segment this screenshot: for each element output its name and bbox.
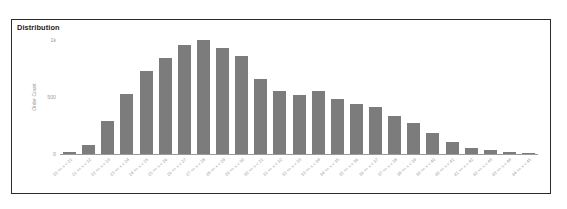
x-tick-slot: 33 <= x < 34 bbox=[309, 156, 328, 194]
x-tick-slot: 32 <= x < 33 bbox=[290, 156, 309, 194]
x-tick-slot: 42 <= x < 43 bbox=[481, 156, 500, 194]
bar-slot bbox=[290, 40, 309, 154]
bar-slot bbox=[98, 40, 117, 154]
x-tick-slot: 30 <= x < 31 bbox=[251, 156, 270, 194]
bar[interactable] bbox=[178, 45, 191, 154]
bar-slot bbox=[117, 40, 136, 154]
bar-slot bbox=[79, 40, 98, 154]
bar-slot bbox=[366, 40, 385, 154]
bar-slot bbox=[175, 40, 194, 154]
bar[interactable] bbox=[82, 145, 95, 154]
bar-slot bbox=[213, 40, 232, 154]
bar[interactable] bbox=[254, 79, 267, 154]
bar-series bbox=[60, 40, 538, 154]
bar-slot bbox=[481, 40, 500, 154]
x-tick-slot: 23 <= x < 24 bbox=[117, 156, 136, 194]
x-axis-tick-label: 20 <= x < 21 bbox=[51, 157, 73, 177]
bar[interactable] bbox=[369, 107, 382, 154]
bar[interactable] bbox=[350, 104, 363, 154]
bar[interactable] bbox=[522, 153, 535, 154]
bar-slot bbox=[251, 40, 270, 154]
bar[interactable] bbox=[465, 148, 478, 154]
bar[interactable] bbox=[407, 123, 420, 154]
plot-area bbox=[60, 40, 538, 154]
bar[interactable] bbox=[140, 71, 153, 154]
y-axis-tick-label: 0 bbox=[53, 151, 60, 157]
bar[interactable] bbox=[273, 91, 286, 154]
x-axis-ticks: 20 <= x < 2121 <= x < 2222 <= x < 2323 <… bbox=[60, 156, 538, 194]
bar[interactable] bbox=[63, 152, 76, 154]
bar-slot bbox=[137, 40, 156, 154]
bar-slot bbox=[443, 40, 462, 154]
bar[interactable] bbox=[293, 95, 306, 154]
bar-slot bbox=[347, 40, 366, 154]
bar-slot bbox=[194, 40, 213, 154]
bar[interactable] bbox=[120, 94, 133, 154]
bar-slot bbox=[404, 40, 423, 154]
bar[interactable] bbox=[312, 91, 325, 154]
bar-slot bbox=[60, 40, 79, 154]
bar[interactable] bbox=[159, 58, 172, 154]
bar-slot bbox=[462, 40, 481, 154]
bar[interactable] bbox=[331, 99, 344, 154]
bar-slot bbox=[328, 40, 347, 154]
x-axis-line bbox=[60, 154, 538, 155]
bar[interactable] bbox=[101, 121, 114, 154]
x-tick-slot: 44 <= x < 45 bbox=[519, 156, 538, 194]
bar-slot bbox=[385, 40, 404, 154]
x-tick-slot: 40 <= x < 41 bbox=[443, 156, 462, 194]
bar[interactable] bbox=[426, 133, 439, 154]
bar-slot bbox=[309, 40, 328, 154]
x-tick-slot: 22 <= x < 23 bbox=[98, 156, 117, 194]
bar[interactable] bbox=[388, 116, 401, 154]
x-tick-slot: 34 <= x < 35 bbox=[328, 156, 347, 194]
bar-slot bbox=[519, 40, 538, 154]
screenshot-root: Distribution Order Count 1k5000 20 <= x … bbox=[0, 0, 567, 209]
x-tick-slot: 24 <= x < 25 bbox=[137, 156, 156, 194]
bar-slot bbox=[156, 40, 175, 154]
bar[interactable] bbox=[235, 56, 248, 154]
bar[interactable] bbox=[503, 152, 516, 154]
bar-slot bbox=[423, 40, 442, 154]
distribution-bar-chart: Order Count 1k5000 20 <= x < 2121 <= x <… bbox=[12, 20, 552, 195]
bar[interactable] bbox=[484, 150, 497, 154]
y-axis-tick-label: 500 bbox=[47, 94, 60, 100]
y-axis-tick-label: 1k bbox=[51, 37, 60, 43]
bar-slot bbox=[500, 40, 519, 154]
bar-slot bbox=[270, 40, 289, 154]
x-tick-slot: 41 <= x < 42 bbox=[462, 156, 481, 194]
x-tick-slot: 39 <= x < 40 bbox=[423, 156, 442, 194]
x-tick-slot: 25 <= x < 26 bbox=[156, 156, 175, 194]
bar[interactable] bbox=[446, 142, 459, 154]
bar-slot bbox=[232, 40, 251, 154]
y-axis-title: Order Count bbox=[31, 83, 37, 111]
bar[interactable] bbox=[197, 40, 210, 154]
distribution-card: Distribution Order Count 1k5000 20 <= x … bbox=[11, 19, 551, 194]
x-tick-slot: 38 <= x < 39 bbox=[404, 156, 423, 194]
bar[interactable] bbox=[216, 48, 229, 154]
x-tick-slot: 31 <= x < 32 bbox=[270, 156, 289, 194]
x-tick-slot: 26 <= x < 27 bbox=[175, 156, 194, 194]
